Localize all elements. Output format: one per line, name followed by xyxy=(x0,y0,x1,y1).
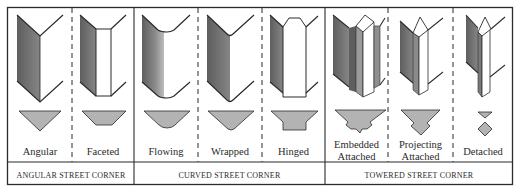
hinged-elevation-icon xyxy=(270,15,318,97)
group-label-towered: TOWERED STREET CORNER xyxy=(325,171,513,180)
column-label-faceted: Faceted xyxy=(72,146,134,158)
detached-elevation-icon xyxy=(466,15,505,97)
column-label-projecting-attached: Projecting Attached xyxy=(388,139,453,163)
detached-plan-icon xyxy=(478,112,492,136)
flowing-elevation-icon xyxy=(142,15,190,98)
flowing-plan-icon xyxy=(144,111,190,128)
angular-plan-icon xyxy=(19,111,61,131)
wrapped-plan-icon xyxy=(208,111,254,130)
angular-elevation-icon xyxy=(17,15,63,102)
column-label-wrapped: Wrapped xyxy=(198,146,262,158)
embedded-attached-plan-icon xyxy=(335,110,386,133)
hinged-plan-icon xyxy=(271,111,318,130)
faceted-plan-icon xyxy=(82,111,126,125)
projecting-attached-elevation-icon xyxy=(400,17,443,95)
street-corner-typology-diagram: Angular Faceted Flowing Wrapped Hinged E… xyxy=(0,0,520,191)
column-label-flowing: Flowing xyxy=(134,146,198,158)
faceted-elevation-icon xyxy=(80,15,126,96)
column-label-detached: Detached xyxy=(453,146,513,158)
column-label-embedded-attached: Embedded Attached xyxy=(325,139,388,163)
group-label-curved: CURVED STREET CORNER xyxy=(134,171,325,180)
column-label-hinged: Hinged xyxy=(262,146,325,158)
group-label-angular: ANGULAR STREET CORNER xyxy=(8,171,134,180)
wrapped-elevation-icon xyxy=(207,15,254,102)
projecting-attached-plan-icon xyxy=(401,110,440,135)
column-label-angular: Angular xyxy=(8,146,72,158)
embedded-attached-elevation-icon xyxy=(333,15,385,97)
